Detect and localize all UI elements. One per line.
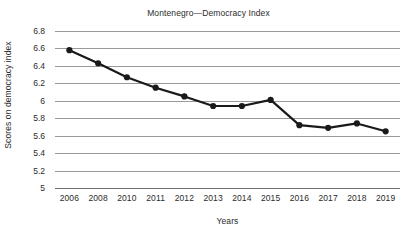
- y-tick-label: 5.6: [33, 131, 45, 140]
- x-tick-label: 2010: [117, 193, 136, 204]
- x-tick-label: 2018: [347, 193, 366, 204]
- x-axis-title: Years: [55, 216, 400, 226]
- data-point-marker: [124, 74, 130, 80]
- data-point-marker: [239, 103, 245, 109]
- x-axis-tick-labels: 2006200820102011201220132014201520162017…: [55, 193, 400, 207]
- data-point-marker: [268, 97, 274, 103]
- plot-area: [55, 31, 400, 188]
- y-tick-label: 5.2: [33, 166, 45, 175]
- data-point-marker: [383, 128, 389, 134]
- data-point-marker: [354, 120, 360, 126]
- x-tick-label: 2016: [290, 193, 309, 204]
- y-axis-tick-labels: 6.86.66.46.265.85.65.45.25: [0, 31, 50, 188]
- y-tick-label: 5.8: [33, 114, 45, 123]
- chart-title: Montenegro—Democracy Index: [0, 8, 417, 18]
- y-tick-label: 6.2: [33, 79, 45, 88]
- x-tick-label: 2014: [232, 193, 251, 204]
- y-tick-label: 6.4: [33, 61, 45, 70]
- series-markers: [66, 47, 388, 134]
- x-tick-label: 2019: [376, 193, 395, 204]
- data-point-marker: [325, 125, 331, 131]
- y-tick-label: 5.4: [33, 149, 45, 158]
- x-tick-label: 2011: [146, 193, 165, 204]
- x-tick-label: 2017: [318, 193, 337, 204]
- x-tick-label: 2015: [261, 193, 280, 204]
- data-point-marker: [66, 47, 72, 53]
- data-series-line: [55, 31, 400, 188]
- y-tick-label: 6: [40, 96, 45, 105]
- chart-container: Montenegro—Democracy Index Scores on dem…: [0, 0, 417, 241]
- y-tick-label: 5: [40, 184, 45, 193]
- x-tick-label: 2013: [203, 193, 222, 204]
- series-polyline: [69, 50, 385, 131]
- x-axis-line: [55, 188, 400, 189]
- data-point-marker: [296, 122, 302, 128]
- data-point-marker: [210, 103, 216, 109]
- data-point-marker: [181, 93, 187, 99]
- x-tick-label: 2008: [88, 193, 107, 204]
- data-point-marker: [95, 60, 101, 66]
- x-tick-label: 2006: [60, 193, 79, 204]
- x-tick-label: 2012: [175, 193, 194, 204]
- data-point-marker: [153, 85, 159, 91]
- y-tick-label: 6.8: [33, 27, 45, 36]
- y-tick-label: 6.6: [33, 44, 45, 53]
